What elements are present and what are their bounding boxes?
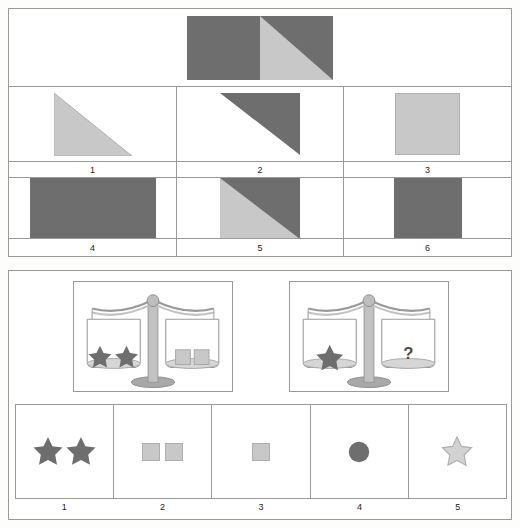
square-split-diagonal-light-dark-icon: [220, 178, 300, 239]
shape-option-1[interactable]: [9, 87, 176, 161]
balance-option-label-1: 1: [15, 499, 113, 515]
dark-rectangle-icon: [30, 178, 156, 239]
shape-option-label-2: 2: [176, 162, 343, 177]
light-square-icon: [252, 443, 270, 461]
light-square-icon: [176, 350, 191, 365]
light-square-icon: [194, 350, 209, 365]
balance-option-row: [15, 404, 507, 499]
light-right-triangle-hyp-tl-br-icon: [54, 93, 132, 156]
shape-option-row-top: [9, 87, 511, 161]
shape-option-5[interactable]: [176, 178, 343, 238]
shape-label-row-top: 1 2 3: [9, 161, 511, 178]
question-mark-label: ?: [403, 344, 413, 363]
light-square-icon: [395, 93, 460, 155]
balance-option-1[interactable]: [16, 405, 113, 498]
dark-square-icon: [394, 178, 462, 239]
balance-option-label-5: 5: [409, 499, 507, 515]
balance-scale-icon: [74, 282, 232, 391]
light-star-icon: [441, 436, 473, 467]
shape-option-row-bottom: [9, 178, 511, 238]
balance-option-4[interactable]: [310, 405, 408, 498]
shape-option-4[interactable]: [9, 178, 176, 238]
shape-option-2[interactable]: [176, 87, 343, 161]
balance-option-label-3: 3: [212, 499, 310, 515]
balance-option-3[interactable]: [211, 405, 309, 498]
balance-label-row: 1 2 3 4 5: [15, 499, 507, 515]
balance-scale-row: ?: [9, 271, 511, 402]
shape-stem-row: [9, 9, 511, 87]
shape-option-label-6: 6: [343, 239, 511, 256]
shape-option-label-3: 3: [343, 162, 511, 177]
shape-option-3[interactable]: [343, 87, 511, 161]
balance-scale-icon: ?: [290, 282, 448, 391]
dark-right-triangle-hyp-tl-br-icon: [220, 93, 300, 155]
shape-option-label-1: 1: [9, 162, 176, 177]
shape-option-label-4: 4: [9, 239, 176, 256]
two-dark-stars-icon: [32, 436, 98, 468]
shape-label-row-bottom: 4 5 6: [9, 238, 511, 256]
worksheet-page: 1 2 3 4: [0, 0, 520, 528]
balance-option-2[interactable]: [113, 405, 211, 498]
balance-option-label-4: 4: [310, 499, 408, 515]
shape-matrix-puzzle: 1 2 3 4: [8, 8, 512, 257]
balance-option-5[interactable]: [408, 405, 506, 498]
shape-option-6[interactable]: [343, 178, 511, 238]
stem-rectangle-half-dark-half-diagonal: [187, 16, 333, 80]
dark-circle-icon: [348, 441, 370, 463]
two-light-squares-icon: [142, 443, 184, 461]
scale-example: [73, 281, 233, 392]
scale-question: ?: [289, 281, 449, 392]
balance-scale-puzzle: ?: [8, 270, 512, 520]
balance-option-label-2: 2: [113, 499, 211, 515]
shape-option-label-5: 5: [176, 239, 343, 256]
